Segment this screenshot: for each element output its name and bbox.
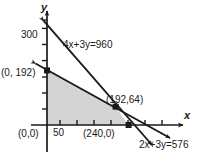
point-label-y-intercept: (0, 192) bbox=[1, 68, 35, 78]
point-label-x-intercept: (240,0) bbox=[83, 129, 115, 139]
point-label-corner: (192,64) bbox=[106, 95, 143, 105]
y-tick-label-300: 300 bbox=[21, 30, 38, 40]
vertex-dot-0-192 bbox=[44, 67, 50, 73]
equation-label-line-a: 4x+3y=960 bbox=[63, 40, 113, 50]
point-label-origin: (0,0) bbox=[18, 129, 39, 139]
graph-figure: y x 300 (0, 192) (0,0) 50 (240,0) (192,6… bbox=[0, 0, 206, 163]
equation-label-line-b: 2x+3y=576 bbox=[139, 140, 189, 150]
vertex-dot-240-0 bbox=[126, 122, 132, 128]
x-axis-label: x bbox=[184, 110, 190, 121]
x-tick-label-50: 50 bbox=[53, 128, 64, 138]
y-axis-label: y bbox=[41, 2, 47, 13]
